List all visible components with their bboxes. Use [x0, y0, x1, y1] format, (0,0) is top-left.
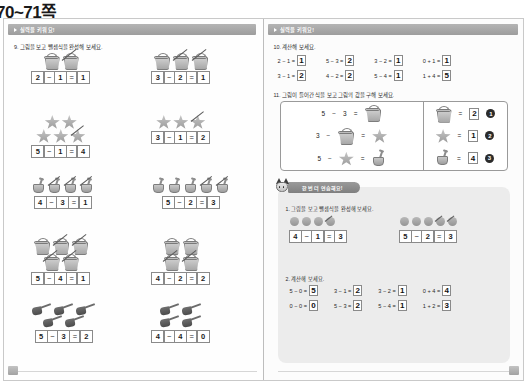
equation-number[interactable]: 5	[162, 196, 175, 209]
equation-number[interactable]: 3	[151, 71, 164, 84]
calculation-answer[interactable]: 0	[309, 300, 318, 311]
shovel-icon	[216, 178, 230, 194]
equation-number[interactable]: 1	[174, 131, 187, 144]
equation-operator: −	[327, 132, 331, 139]
equation-number[interactable]: 2	[421, 230, 434, 243]
question-11-equation-row: 3−=	[281, 128, 423, 144]
question-11-answer-row: =43	[424, 150, 507, 166]
equation-number[interactable]: 1	[54, 145, 67, 158]
shovel-icon	[32, 178, 46, 194]
equation-number[interactable]: 2	[197, 272, 210, 285]
question-11-answer-row: =21	[424, 106, 507, 122]
equation-number[interactable]: 5	[31, 145, 44, 158]
equation-number[interactable]: 4	[34, 196, 47, 209]
equation-number[interactable]: 1	[79, 196, 92, 209]
calculation-expression: 5 − 4 =	[374, 73, 391, 79]
equation-number[interactable]: 3	[207, 196, 220, 209]
left-page: 실력을 키워요! 9. 그림을 보고 뺄셈식을 완성해 보세요. 2−1=13−…	[4, 19, 264, 380]
calculation-item: 1 + 2 =3	[423, 300, 451, 311]
picture-row	[36, 129, 85, 143]
review-item-2-calculations: 5 − 0 =50 − 0 =03 − 1 =25 − 3 =23 − 2 =1…	[290, 285, 452, 311]
left-band-label: 실력을 키워요!	[20, 26, 55, 33]
question-11-equations: 5−3=3−=5−=	[281, 102, 424, 170]
star-icon	[156, 115, 171, 129]
equation-number[interactable]: 3	[56, 196, 69, 209]
counter-dot-icon	[448, 217, 457, 226]
equation-number[interactable]: 4	[54, 272, 67, 285]
calculation-answer[interactable]: 2	[353, 300, 362, 311]
question-9-item: 4−2=2	[152, 238, 210, 285]
equation-number[interactable]: 3	[334, 230, 347, 243]
crossed-out-mark	[190, 52, 207, 68]
equation-number[interactable]: 0	[197, 330, 210, 343]
calculation-answer[interactable]: 2	[297, 70, 306, 81]
review-dot-row	[290, 217, 348, 226]
equation: 3−1=2	[152, 131, 210, 144]
equation-number[interactable]: 1	[311, 230, 324, 243]
equation-number[interactable]: 3	[57, 330, 70, 343]
equation-number[interactable]: 4	[77, 145, 90, 158]
calculation-answer[interactable]: 2	[345, 55, 354, 66]
picture-row	[43, 254, 79, 270]
equation-number[interactable]: 1	[54, 71, 67, 84]
shovel-icon	[184, 178, 198, 194]
calculation-expression: 3 − 2 =	[374, 58, 391, 64]
question-11-answer-row: =12	[424, 129, 507, 143]
calculation-answer[interactable]: 1	[297, 55, 306, 66]
equation-number[interactable]: 5	[35, 330, 48, 343]
star-icon	[53, 129, 68, 143]
calculation-answer[interactable]: 5	[442, 70, 451, 81]
equation-number[interactable]: 4	[151, 272, 164, 285]
equation-number[interactable]: 3	[151, 131, 164, 144]
equation-number[interactable]: 2	[184, 196, 197, 209]
spade-icon	[160, 304, 180, 316]
calculation-answer[interactable]: 1	[398, 285, 407, 296]
question-11-answer-value[interactable]: 4	[468, 152, 478, 164]
calculation-answer[interactable]: 1	[394, 55, 403, 66]
counter-dot-icon	[400, 217, 409, 226]
calculation-answer[interactable]: 2	[353, 285, 362, 296]
equation-number[interactable]: 2	[197, 131, 210, 144]
equation-number[interactable]: 2	[174, 71, 187, 84]
review-item-2-label: 2. 계산해 보세요.	[286, 275, 325, 282]
equation-number[interactable]: 1	[77, 71, 90, 84]
equation-number[interactable]: 3	[444, 230, 457, 243]
calculation-answer[interactable]: 3	[442, 300, 451, 311]
equation-number[interactable]: 5	[31, 272, 44, 285]
question-11-answer-value[interactable]: 1	[468, 130, 478, 142]
calculation-item: 1 + 4 =5	[423, 70, 451, 81]
equation-number[interactable]: 4	[151, 330, 164, 343]
calculation-answer[interactable]: 1	[442, 55, 451, 66]
calculation-answer[interactable]: 5	[309, 285, 318, 296]
calculation-item: 0 + 1 =1	[423, 55, 451, 66]
spade-icon	[32, 304, 52, 316]
equation-number[interactable]: 4	[289, 230, 302, 243]
question-9-label: 9. 그림을 보고 뺄셈식을 완성해 보세요.	[14, 43, 102, 51]
picture-equation-group: 4−3=1	[32, 178, 94, 209]
calculation-answer[interactable]: 1	[398, 300, 407, 311]
equation-operator: −	[332, 110, 336, 117]
picture-equation-group: 2−1=1	[32, 53, 90, 84]
star-icon	[339, 152, 354, 166]
question-9-item: 4−3=1	[32, 178, 94, 209]
calculation-item: 5 − 4 =1	[374, 70, 402, 81]
crossed-out-mark	[79, 177, 93, 193]
calculation-answer[interactable]: 2	[345, 70, 354, 81]
right-page-number-badge	[509, 366, 519, 375]
calculation-answer[interactable]: 4	[442, 285, 451, 296]
right-page-section-band: 실력을 키워요!	[268, 24, 518, 35]
equation-number[interactable]: 1	[77, 272, 90, 285]
equation-number[interactable]: 5	[399, 230, 412, 243]
question-11-answer-value[interactable]: 2	[469, 108, 479, 120]
picture-equation-group: 5−3=2	[32, 304, 96, 343]
equation-number[interactable]: 4	[174, 330, 187, 343]
equation-number[interactable]: 2	[80, 330, 93, 343]
equation-number[interactable]: 2	[174, 272, 187, 285]
calculation-answer[interactable]: 1	[394, 70, 403, 81]
bucket-icon	[62, 53, 79, 69]
star-icon	[190, 115, 205, 129]
equation-number[interactable]: 1	[197, 71, 210, 84]
equation-number[interactable]: 2	[31, 71, 44, 84]
spade-icon	[54, 304, 74, 316]
question-9-item: 5−4=1	[32, 238, 90, 285]
